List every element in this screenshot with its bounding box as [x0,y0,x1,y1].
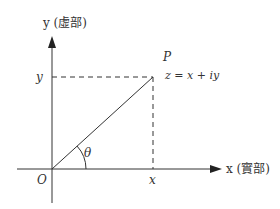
origin-label: O [37,173,47,187]
complex-plane-diagram: y (虛部) x (實部) y x O P z = x + iy θ [0,0,280,209]
y-axis-arrowhead [48,36,56,48]
point-label: P [162,50,172,64]
y-axis-label: y (虛部) [42,15,87,30]
vector-op [52,77,153,169]
y-tick-label: y [35,70,43,84]
x-tick-label: x [149,173,156,187]
x-axis-label: x (實部) [226,161,270,176]
equation-label: z = x + iy [164,69,220,82]
x-axis-arrowhead [210,165,222,173]
angle-label: θ [84,146,92,160]
